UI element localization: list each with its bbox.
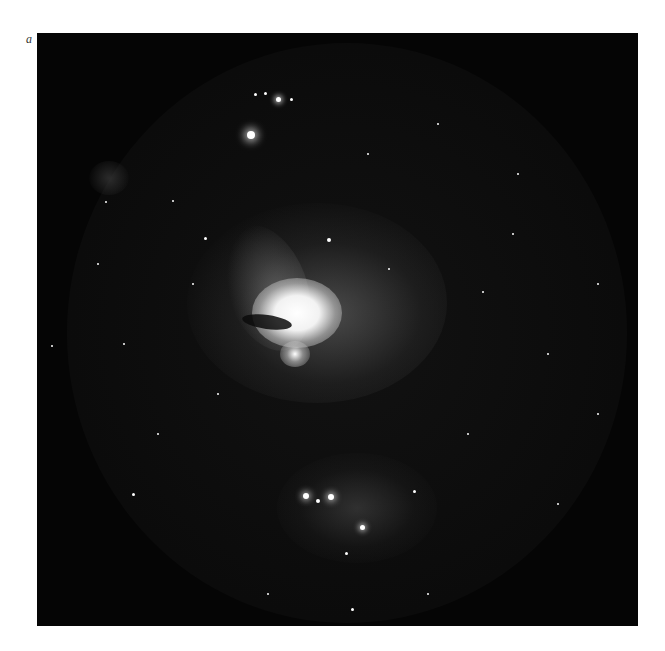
star xyxy=(367,153,369,155)
star xyxy=(51,345,53,347)
star xyxy=(482,291,484,293)
star xyxy=(192,283,194,285)
star xyxy=(172,200,174,202)
star xyxy=(264,92,267,95)
star xyxy=(328,494,334,500)
star xyxy=(217,393,219,395)
star xyxy=(105,201,107,203)
star xyxy=(388,268,390,270)
star xyxy=(512,233,514,235)
star xyxy=(360,525,365,530)
m43-glow xyxy=(280,341,310,367)
star xyxy=(204,237,207,240)
star xyxy=(351,608,354,611)
panel-label: a xyxy=(26,32,32,47)
star xyxy=(345,552,348,555)
star xyxy=(290,98,293,101)
nebula-photograph xyxy=(37,33,638,626)
star xyxy=(547,353,549,355)
star xyxy=(327,238,331,242)
star xyxy=(123,343,125,345)
star xyxy=(437,123,439,125)
running-man-nebula xyxy=(277,453,437,563)
star xyxy=(597,413,599,415)
star xyxy=(413,490,416,493)
star xyxy=(517,173,519,175)
star xyxy=(467,433,469,435)
star xyxy=(132,493,135,496)
star xyxy=(557,503,559,505)
nebula-core xyxy=(252,278,342,348)
star xyxy=(267,593,269,595)
faint-nebulosity xyxy=(89,161,129,195)
star xyxy=(97,263,99,265)
star xyxy=(597,283,599,285)
star xyxy=(254,93,257,96)
bright-star xyxy=(247,131,255,139)
star xyxy=(427,593,429,595)
star xyxy=(157,433,159,435)
star xyxy=(276,97,281,102)
star xyxy=(316,499,320,503)
star xyxy=(303,493,309,499)
